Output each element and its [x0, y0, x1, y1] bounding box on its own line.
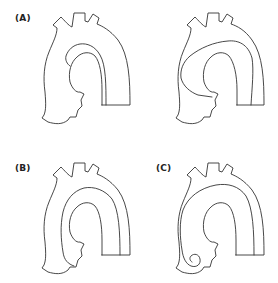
aorta-c: [176, 163, 264, 274]
aorta-a-right: [176, 13, 264, 124]
aorta-b: [42, 163, 130, 274]
aorta-diagram: [0, 0, 278, 283]
aorta-a-left: [42, 13, 130, 124]
